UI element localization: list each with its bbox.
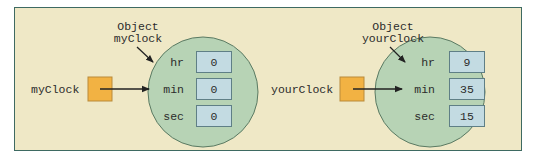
field-label-min: min: [150, 83, 184, 96]
field-value-sec: 15: [449, 105, 485, 127]
field-label-hr: hr: [150, 56, 184, 69]
field-value-sec: 0: [196, 105, 232, 127]
object-caption-name: myClock: [108, 32, 168, 45]
field-label-sec: sec: [150, 110, 184, 123]
field-label-min: min: [401, 83, 435, 96]
field-value-min: 0: [196, 78, 232, 100]
variable-label: yourClock: [271, 83, 333, 96]
field-label-sec: sec: [401, 110, 435, 123]
variable-label: myClock: [31, 83, 79, 96]
field-value-min: 35: [449, 78, 485, 100]
object-caption-name: yourClock: [358, 32, 428, 45]
field-value-hr: 0: [196, 51, 232, 73]
field-label-hr: hr: [401, 56, 435, 69]
field-value-hr: 9: [449, 51, 485, 73]
